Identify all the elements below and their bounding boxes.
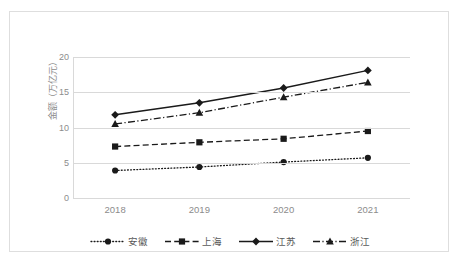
y-tick-label: 0	[29, 193, 69, 203]
legend-label: 江苏	[276, 234, 296, 248]
x-axis-tick-labels: 2018201920202021	[73, 204, 410, 218]
data-point	[364, 78, 372, 85]
y-tick-label: 10	[29, 123, 69, 133]
gridline	[73, 198, 410, 199]
dotted-line-circle-marker-icon	[91, 236, 125, 247]
dashdot-line-triangle-marker-icon	[313, 236, 347, 247]
y-tick-label: 15	[29, 87, 69, 97]
data-point	[365, 155, 371, 161]
x-tick-label: 2020	[254, 204, 314, 215]
data-point	[281, 136, 287, 142]
data-point	[111, 111, 119, 119]
solid-line-diamond-marker-icon	[239, 236, 273, 247]
legend-label: 上海	[202, 234, 222, 248]
gridline	[73, 128, 410, 129]
y-tick-label: 5	[29, 158, 69, 168]
plot-area	[73, 57, 410, 198]
series-浙江	[111, 78, 371, 127]
x-tick-label: 2019	[169, 204, 229, 215]
legend-label: 安徽	[128, 234, 148, 248]
legend-label: 浙江	[350, 234, 370, 248]
series-line	[115, 158, 368, 171]
gridline	[73, 163, 410, 164]
legend-item-江苏[interactable]: 江苏	[239, 234, 296, 248]
data-point	[112, 143, 118, 149]
dashed-line-square-marker-icon	[165, 236, 199, 247]
data-point	[195, 99, 203, 107]
legend-item-上海[interactable]: 上海	[165, 234, 222, 248]
data-point	[364, 66, 372, 74]
x-tick-label: 2018	[85, 204, 145, 215]
data-point	[112, 167, 118, 173]
data-point	[196, 139, 202, 145]
gridline	[73, 92, 410, 93]
chart-legend: 安徽上海江苏浙江	[10, 231, 450, 251]
series-上海	[112, 128, 371, 150]
chart-card: 金额（万亿元） 20151050 2018201920202021 安徽上海江苏…	[9, 11, 449, 252]
series-line	[115, 82, 368, 124]
y-axis-tick-labels: 20151050	[28, 57, 69, 198]
legend-item-安徽[interactable]: 安徽	[91, 234, 148, 248]
data-point	[196, 164, 202, 170]
series-安徽	[112, 155, 371, 174]
gridline	[73, 57, 410, 58]
data-point	[280, 84, 288, 92]
legend-item-浙江[interactable]: 浙江	[313, 234, 370, 248]
x-tick-label: 2021	[338, 204, 398, 215]
y-tick-label: 20	[29, 52, 69, 62]
series-line	[115, 131, 368, 147]
